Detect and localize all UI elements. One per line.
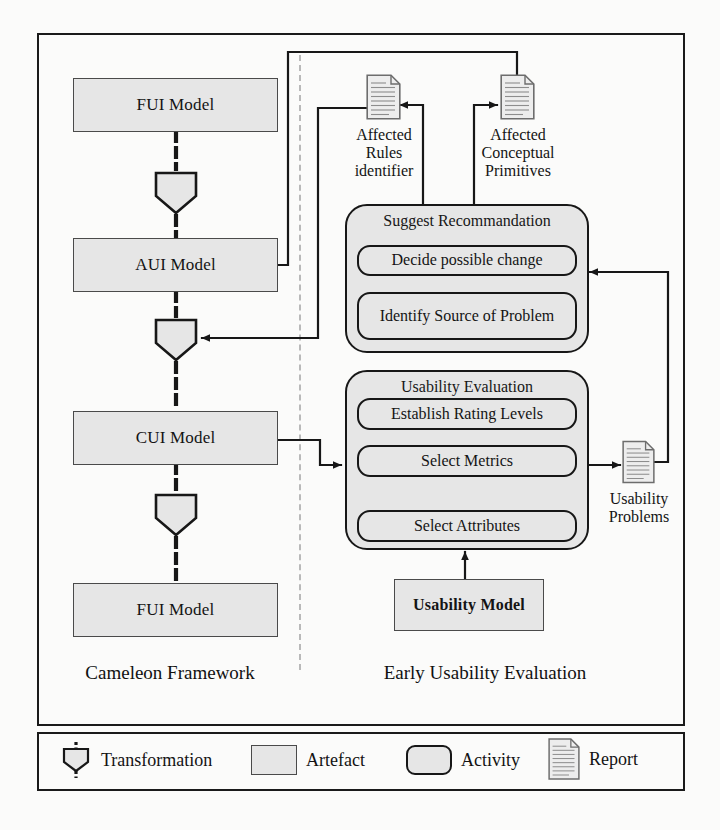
artefact-cui-model[interactable]: CUI Model	[73, 411, 278, 465]
section-label-cameleon-framework: Cameleon Framework	[45, 662, 295, 684]
legend-label: Activity	[461, 750, 520, 771]
report-label-affected-rules: Affected Rules identifier	[318, 126, 450, 180]
artefact-aui-model[interactable]: AUI Model	[73, 238, 278, 292]
activity-select-attributes[interactable]: Select Attributes	[357, 510, 577, 542]
legend-item-transformation[interactable]: Transformation	[60, 742, 212, 778]
activity-establish-rating-levels[interactable]: Establish Rating Levels	[357, 398, 577, 430]
artefact-label: FUI Model	[137, 95, 215, 115]
transformation-icon-aui-cui[interactable]	[153, 317, 199, 363]
activity-group-title: Usability Evaluation	[347, 378, 587, 396]
activity-group-title: Suggest Recommandation	[347, 212, 587, 230]
report-label-usability-problems: Usability Problems	[592, 490, 686, 526]
activity-label: Establish Rating Levels	[391, 406, 543, 423]
report-label-affected-conceptual-primitives: Affected Conceptual Primitives	[452, 126, 584, 180]
report-icon-affected-rules[interactable]	[366, 74, 401, 120]
legend-label: Artefact	[306, 750, 365, 771]
activity-label: Select Attributes	[414, 518, 520, 535]
artefact-fui-model-top[interactable]: FUI Model	[73, 78, 278, 132]
report-icon-affected-conceptual-primitives[interactable]	[500, 74, 535, 120]
report-icon-usability-problems[interactable]	[622, 440, 655, 484]
activity-label: Identify Source of Problem	[380, 308, 555, 325]
activity-identify-source-of-problem[interactable]: Identify Source of Problem	[357, 292, 577, 340]
artefact-label: AUI Model	[135, 255, 216, 275]
diagram-canvas: FUI Model AUI Model CUI Model FUI Model	[0, 0, 720, 830]
activity-select-metrics[interactable]: Select Metrics	[357, 445, 577, 477]
legend-item-report[interactable]: Report	[548, 737, 638, 781]
artefact-label: CUI Model	[136, 428, 216, 448]
transformation-icon-cui-fui[interactable]	[153, 492, 199, 538]
artefact-fui-model-bottom[interactable]: FUI Model	[73, 583, 278, 637]
activity-label: Select Metrics	[421, 453, 513, 470]
legend-label: Transformation	[101, 750, 212, 771]
transformation-icon-fui-aui[interactable]	[153, 170, 199, 216]
section-divider	[299, 55, 301, 670]
legend-label: Report	[589, 749, 638, 770]
section-label-early-usability-evaluation: Early Usability Evaluation	[320, 662, 650, 684]
legend-item-artefact[interactable]: Artefact	[251, 745, 365, 775]
artefact-usability-model[interactable]: Usability Model	[394, 579, 544, 631]
artefact-icon	[251, 745, 297, 775]
legend-item-activity[interactable]: Activity	[406, 745, 520, 775]
report-icon	[548, 737, 580, 781]
activity-decide-possible-change[interactable]: Decide possible change	[357, 245, 577, 276]
activity-label: Decide possible change	[391, 252, 542, 269]
artefact-label: Usability Model	[413, 596, 525, 614]
artefact-label: FUI Model	[137, 600, 215, 620]
activity-icon	[406, 745, 452, 775]
transformation-icon	[60, 742, 92, 778]
